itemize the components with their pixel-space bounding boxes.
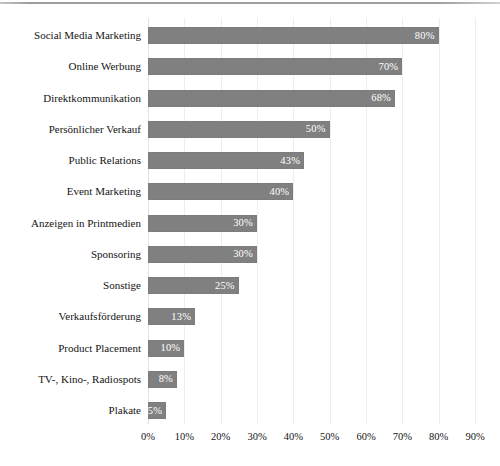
bar-value-label: 50% (306, 124, 326, 135)
category-label: Verkaufsförderung (59, 308, 141, 325)
category-label: Anzeigen in Printmedien (31, 215, 141, 232)
bar-row: 68% (148, 90, 475, 107)
x-tick-label: 20% (211, 430, 230, 444)
bar[interactable]: 5% (148, 402, 166, 419)
category-label: Persönlicher Verkauf (49, 121, 141, 138)
bar-row: 25% (148, 277, 475, 294)
bar[interactable]: 68% (148, 90, 395, 107)
bar-row: 10% (148, 340, 475, 357)
bar[interactable]: 43% (148, 152, 304, 169)
x-axis-ticks: 0%10%20%30%40%50%60%70%80%90% (148, 430, 475, 448)
bar-value-label: 70% (378, 62, 398, 73)
category-label: Sonstige (103, 277, 141, 294)
bar-chart: Social Media MarketingOnline WerbungDire… (0, 0, 500, 466)
page-top-rule (0, 2, 500, 4)
bar[interactable]: 40% (148, 183, 293, 200)
bar-value-label: 43% (280, 155, 300, 166)
bar-row: 43% (148, 152, 475, 169)
bar-rows: 80%70%68%50%43%40%30%30%25%13%10%8%5% (148, 18, 475, 424)
plot-area: 80%70%68%50%43%40%30%30%25%13%10%8%5% (148, 18, 475, 424)
bar-value-label: 30% (233, 249, 253, 260)
bar[interactable]: 8% (148, 371, 177, 388)
bar-value-label: 68% (371, 93, 391, 104)
category-label: Product Placement (58, 340, 141, 357)
bar-row: 80% (148, 27, 475, 44)
bar-row: 30% (148, 246, 475, 263)
bar-value-label: 10% (160, 343, 180, 354)
bar[interactable]: 30% (148, 215, 257, 232)
category-label: Social Media Marketing (34, 27, 141, 44)
bar-value-label: 5% (148, 405, 162, 416)
category-axis-labels: Social Media MarketingOnline WerbungDire… (0, 18, 141, 424)
bar-value-label: 30% (233, 218, 253, 229)
category-label: Public Relations (69, 152, 141, 169)
category-label: Plakate (109, 402, 141, 419)
bar[interactable]: 50% (148, 121, 330, 138)
bar[interactable]: 13% (148, 308, 195, 325)
bar-value-label: 13% (171, 312, 191, 323)
x-tick-label: 70% (393, 430, 412, 444)
bar[interactable]: 30% (148, 246, 257, 263)
category-label: Event Marketing (67, 183, 141, 200)
x-tick-label: 0% (141, 430, 155, 444)
bar-value-label: 8% (159, 374, 173, 385)
category-label: TV-, Kino-, Radiospots (38, 371, 141, 388)
x-tick-label: 60% (356, 430, 375, 444)
x-tick-label: 80% (429, 430, 448, 444)
category-label: Online Werbung (68, 58, 141, 75)
bar-row: 40% (148, 183, 475, 200)
gridline-90 (475, 18, 476, 424)
category-label: Sponsoring (91, 246, 141, 263)
x-tick-label: 90% (465, 430, 484, 444)
bar[interactable]: 10% (148, 340, 184, 357)
bar-row: 30% (148, 215, 475, 232)
x-tick-label: 30% (247, 430, 266, 444)
x-tick-label: 50% (320, 430, 339, 444)
bar-row: 70% (148, 58, 475, 75)
bar-row: 50% (148, 121, 475, 138)
category-label: Direktkommunikation (43, 90, 141, 107)
bar[interactable]: 80% (148, 27, 439, 44)
bar-value-label: 40% (269, 187, 289, 198)
bar[interactable]: 25% (148, 277, 239, 294)
x-tick-label: 10% (175, 430, 194, 444)
bar-row: 8% (148, 371, 475, 388)
bar-value-label: 25% (215, 280, 235, 291)
bar[interactable]: 70% (148, 58, 402, 75)
bar-value-label: 80% (415, 30, 435, 41)
bar-row: 5% (148, 402, 475, 419)
x-tick-label: 40% (284, 430, 303, 444)
bar-row: 13% (148, 308, 475, 325)
